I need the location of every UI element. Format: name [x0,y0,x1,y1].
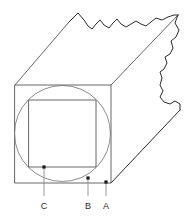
torn-top-edge [69,13,178,29]
label-b: B [85,201,91,211]
label-c: C [41,201,48,211]
marker-dot-b [86,176,89,179]
inner-square [29,100,96,167]
marker-dot-c [42,165,45,168]
label-a: A [103,201,109,211]
geometry-figure: C B A [0,0,192,219]
top-back-edge [15,22,69,85]
figure-root: C B A [0,0,192,219]
bottom-right-edge [111,110,180,183]
torn-right-edge [160,15,180,110]
marker-dot-a [104,180,107,183]
